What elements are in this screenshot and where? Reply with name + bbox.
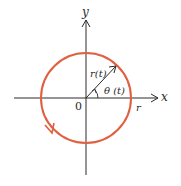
x-axis-label: x: [161, 91, 168, 103]
angle-arc-arrowhead-icon: [92, 89, 96, 93]
angle-label: θ (t): [104, 86, 125, 96]
position-vector-label: r(t): [90, 69, 107, 79]
y-axis-label: y: [82, 6, 89, 18]
radius-label: r: [136, 103, 141, 113]
diagram-graphic: [0, 0, 181, 186]
origin-label: 0: [75, 101, 82, 112]
circle-motion-diagram: y x r 0 r(t) θ (t): [0, 0, 181, 186]
